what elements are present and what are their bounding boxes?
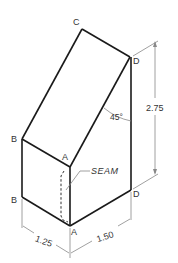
label-d-top: D (133, 56, 140, 66)
right-width-dimension-label: 1.50 (95, 229, 115, 244)
isometric-drawing: C D B A B D A 45° SEAM 2.75 1.25 1.50 (0, 0, 178, 263)
label-b-upper: B (11, 134, 17, 144)
dimension-lines (22, 41, 158, 258)
label-a-top: A (62, 152, 68, 162)
height-dimension-label: 2.75 (146, 103, 164, 113)
object-edges (22, 29, 131, 226)
label-c: C (73, 17, 80, 27)
label-d-lower: D (133, 189, 140, 199)
seam-label: SEAM (91, 166, 119, 176)
label-b-lower: B (11, 195, 17, 205)
left-width-dimension-label: 1.25 (34, 234, 54, 249)
label-a-bottom: A (71, 227, 77, 237)
seam-line (61, 171, 68, 222)
angle-label: 45° (110, 112, 123, 122)
